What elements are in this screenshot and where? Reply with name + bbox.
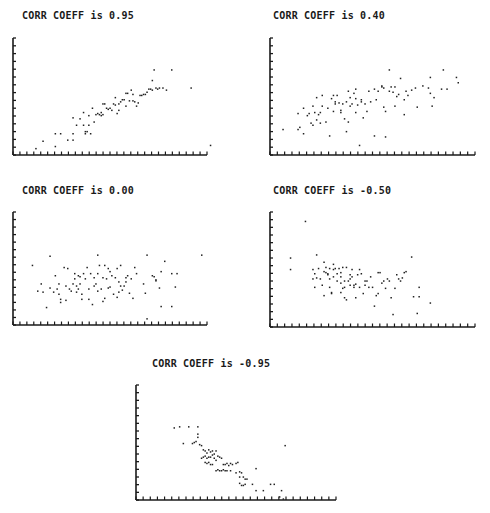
data-point [197, 426, 199, 428]
data-point [241, 485, 243, 487]
data-point [183, 443, 185, 445]
data-point [201, 445, 203, 447]
data-point [283, 498, 285, 500]
data-point [215, 460, 217, 462]
data-point [215, 450, 217, 452]
data-point [239, 471, 241, 473]
data-point [255, 468, 256, 470]
data-point [219, 456, 221, 458]
scatter-plot [0, 0, 490, 513]
data-point [230, 463, 232, 465]
data-point [221, 458, 223, 460]
data-point [232, 464, 234, 466]
data-point [237, 462, 239, 464]
data-point [223, 464, 225, 466]
data-point [241, 472, 243, 474]
data-point [204, 462, 206, 464]
data-point [194, 442, 196, 444]
data-point [204, 455, 206, 457]
data-point [235, 472, 237, 474]
data-point [263, 490, 265, 492]
data-point [212, 450, 214, 452]
data-point [204, 450, 206, 452]
data-point [206, 463, 208, 465]
data-point [239, 483, 241, 485]
data-point [214, 458, 216, 460]
data-point [208, 462, 210, 464]
data-point [203, 456, 205, 458]
data-point [223, 469, 225, 471]
data-point [224, 464, 226, 466]
data-point [228, 465, 230, 467]
data-point [174, 427, 176, 429]
data-point [208, 449, 210, 451]
data-point [210, 456, 212, 458]
data-point [197, 437, 199, 439]
data-point [210, 451, 212, 453]
data-point [255, 490, 256, 492]
data-point [230, 470, 232, 472]
data-point [244, 478, 246, 480]
data-point [203, 449, 205, 451]
data-point [210, 464, 212, 466]
data-point [201, 458, 203, 460]
data-point [208, 456, 210, 458]
data-point [212, 464, 214, 466]
data-point [274, 484, 276, 486]
data-point [215, 470, 217, 472]
data-point [270, 484, 272, 486]
data-point [239, 476, 241, 478]
data-point [243, 485, 245, 487]
data-point [279, 496, 281, 498]
data-point [284, 445, 286, 447]
data-point [235, 463, 237, 465]
data-point [219, 470, 221, 472]
data-point [226, 463, 228, 465]
data-point [226, 470, 228, 472]
data-point [221, 470, 223, 472]
data-point [281, 490, 283, 492]
data-point [179, 426, 181, 428]
data-point [244, 484, 246, 486]
data-point [217, 469, 219, 471]
data-point [214, 453, 216, 455]
data-point [195, 441, 197, 443]
data-point [246, 478, 248, 480]
data-point [188, 426, 190, 428]
data-point [243, 476, 245, 478]
data-point [217, 455, 219, 457]
data-point [199, 444, 201, 446]
data-point [252, 484, 254, 486]
data-point [224, 470, 226, 472]
data-point [206, 452, 208, 454]
data-point [197, 433, 199, 435]
data-point [192, 443, 194, 445]
data-point [212, 454, 214, 456]
data-point [206, 458, 208, 460]
